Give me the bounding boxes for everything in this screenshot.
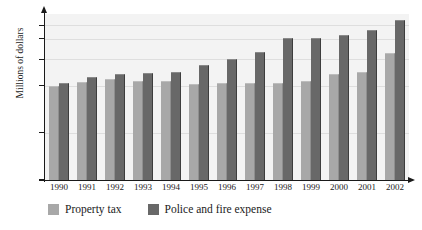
x-tick-label-2002: 2002 <box>381 182 409 192</box>
x-tick-label-1996: 1996 <box>213 182 241 192</box>
gridline <box>45 25 409 26</box>
legend-item-police-fire: Police and fire expense <box>148 203 272 215</box>
bar-police-and-fire-expense-1990 <box>59 83 68 180</box>
bar-police-and-fire-expense-1992 <box>115 74 124 180</box>
y-tick-mark <box>39 179 45 180</box>
chart-legend: Property tax Police and fire expense <box>48 203 298 215</box>
x-tick-label-1995: 1995 <box>185 182 213 192</box>
bar-property-tax-2001 <box>357 72 366 180</box>
gridline <box>45 39 409 40</box>
x-tick-label-1999: 1999 <box>297 182 325 192</box>
x-tick-label-1993: 1993 <box>129 182 157 192</box>
x-tick-label-1992: 1992 <box>101 182 129 192</box>
y-tick-mark <box>39 25 45 26</box>
bar-property-tax-1992 <box>105 79 114 180</box>
bar-property-tax-1995 <box>189 84 198 180</box>
x-axis-arrowhead-icon <box>408 177 415 183</box>
y-tick-mark <box>39 38 45 39</box>
bar-police-and-fire-expense-2001 <box>367 30 376 180</box>
bar-chart: Millions of dollars 02550647582 19901991… <box>0 0 422 230</box>
clipped-header-text <box>0 0 422 9</box>
bar-police-and-fire-expense-1998 <box>283 38 292 180</box>
x-axis-line <box>44 180 409 181</box>
y-axis-arrowhead-icon <box>41 6 47 13</box>
bar-police-and-fire-expense-1991 <box>87 77 96 180</box>
y-tick-mark <box>39 132 45 133</box>
bar-property-tax-1990 <box>49 86 58 180</box>
bar-property-tax-1991 <box>77 82 86 180</box>
bar-police-and-fire-expense-1999 <box>311 38 320 180</box>
y-axis-line <box>44 8 45 182</box>
legend-label-property-tax: Property tax <box>65 203 122 215</box>
legend-item-property-tax: Property tax <box>48 203 122 215</box>
x-tick-label-1994: 1994 <box>157 182 185 192</box>
bar-police-and-fire-expense-1996 <box>227 59 236 180</box>
x-tick-label-1991: 1991 <box>73 182 101 192</box>
x-tick-label-2000: 2000 <box>325 182 353 192</box>
bar-police-and-fire-expense-2000 <box>339 35 348 180</box>
bar-police-and-fire-expense-2002 <box>395 20 404 180</box>
legend-swatch-icon-property-tax <box>48 204 59 215</box>
bar-police-and-fire-expense-1993 <box>143 73 152 180</box>
bar-property-tax-2002 <box>385 53 394 180</box>
bar-property-tax-1996 <box>217 83 226 180</box>
bar-police-and-fire-expense-1997 <box>255 52 264 180</box>
legend-label-police-fire: Police and fire expense <box>165 203 272 215</box>
x-tick-label-1997: 1997 <box>241 182 269 192</box>
plot-inner <box>45 14 409 180</box>
bar-police-and-fire-expense-1994 <box>171 72 180 180</box>
x-tick-label-1998: 1998 <box>269 182 297 192</box>
bar-property-tax-1997 <box>245 83 254 180</box>
bar-property-tax-2000 <box>329 74 338 180</box>
bar-property-tax-1998 <box>273 83 282 180</box>
bar-police-and-fire-expense-1995 <box>199 65 208 180</box>
plot-area <box>45 14 409 180</box>
y-axis-title: Millions of dollars <box>15 13 25 113</box>
x-tick-label-2001: 2001 <box>353 182 381 192</box>
y-tick-mark <box>39 59 45 60</box>
bar-property-tax-1999 <box>301 81 310 180</box>
x-tick-label-1990: 1990 <box>45 182 73 192</box>
legend-swatch-icon-police-fire <box>148 204 159 215</box>
bar-property-tax-1994 <box>161 81 170 180</box>
y-tick-mark <box>39 85 45 86</box>
bar-property-tax-1993 <box>133 81 142 180</box>
